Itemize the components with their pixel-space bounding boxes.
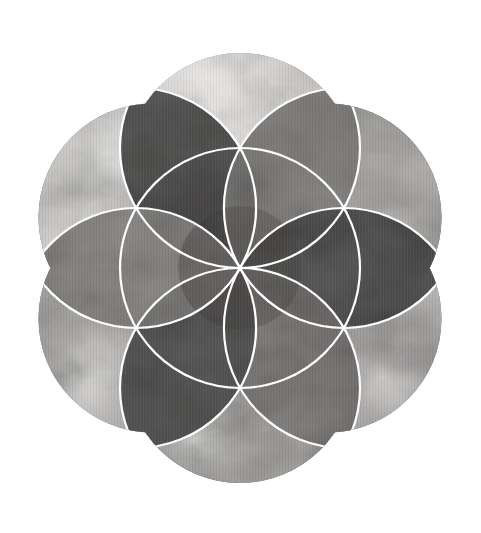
- artwork-canvas: Seed of Life: [0, 0, 481, 533]
- seed-of-life-illustration: [0, 0, 481, 533]
